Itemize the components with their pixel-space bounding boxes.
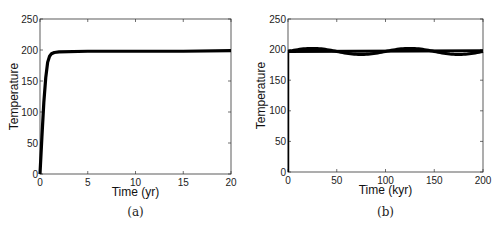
x-tick-label: 0: [285, 175, 291, 186]
ticks-a: 05101520050100150200250: [21, 14, 237, 189]
x-tick-label: 150: [426, 175, 443, 186]
panel-a: 05101520050100150200250 Time (yr) Temper…: [7, 14, 237, 220]
x-tick-label: 20: [225, 177, 237, 188]
y-tick-label: 50: [275, 136, 287, 147]
ticks-b: 050100150200050100150200250: [269, 14, 491, 187]
y-tick-label: 100: [269, 105, 286, 116]
x-axis-label-a: Time (yr): [112, 185, 160, 199]
y-axis-label-a: Temperature: [7, 62, 21, 130]
x-axis-label-b: Time (kyr): [359, 183, 413, 197]
caption-a: (a): [127, 205, 144, 219]
x-tick-label: 15: [178, 177, 190, 188]
y-tick-label: 200: [269, 44, 286, 55]
y-tick-label: 0: [280, 167, 286, 178]
y-tick-label: 250: [269, 14, 286, 25]
y-tick-label: 150: [21, 76, 38, 87]
y-tick-label: 200: [21, 45, 38, 56]
y-axis-label-b: Temperature: [254, 61, 268, 129]
x-tick-label: 0: [37, 177, 43, 188]
mean-line-b: [288, 51, 483, 52]
y-tick-label: 250: [21, 14, 38, 25]
caption-b: (b): [377, 205, 394, 219]
x-tick-label: 50: [331, 175, 343, 186]
figure: 05101520050100150200250 Time (yr) Temper…: [0, 0, 501, 233]
plot-frame-a: [40, 19, 231, 174]
x-tick-label: 5: [85, 177, 91, 188]
y-tick-label: 150: [269, 75, 286, 86]
panel-b: 050100150200050100150200250 Time (kyr) T…: [254, 14, 492, 220]
plot-frame-b: [288, 19, 483, 172]
x-tick-label: 200: [475, 175, 492, 186]
y-tick-label: 100: [21, 107, 38, 118]
y-tick-label: 0: [32, 169, 38, 180]
temperature-line-a: [40, 51, 231, 174]
y-tick-label: 50: [27, 138, 39, 149]
